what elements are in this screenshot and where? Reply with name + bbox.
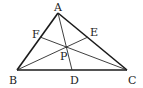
triangle-diagram: A B C D E F P [0, 0, 143, 88]
label-b: B [9, 74, 17, 87]
label-d: D [70, 74, 79, 87]
label-p: P [60, 50, 68, 63]
label-a: A [53, 1, 63, 14]
label-e: E [90, 26, 98, 39]
label-c: C [128, 74, 136, 87]
side-ac [58, 13, 127, 70]
label-f: F [32, 28, 40, 41]
